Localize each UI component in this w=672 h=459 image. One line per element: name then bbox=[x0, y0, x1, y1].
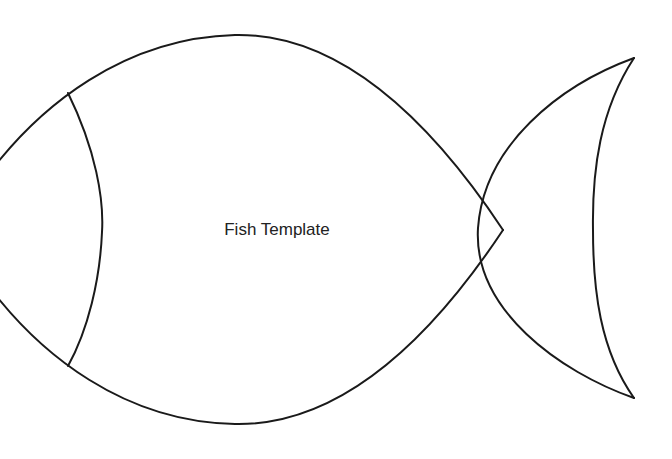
fish-body-lower-outline bbox=[0, 230, 503, 424]
fish-body-upper-outline bbox=[0, 35, 503, 230]
template-title: Fish Template bbox=[177, 219, 377, 241]
fish-tail-inner-outline bbox=[593, 58, 634, 398]
fish-gill-line bbox=[68, 93, 102, 366]
